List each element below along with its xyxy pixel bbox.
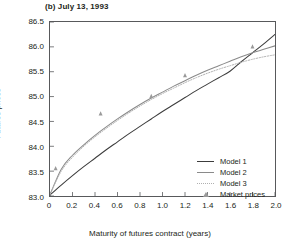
panel-title: (b) July 13, 1993 xyxy=(45,2,109,11)
legend-label: Model 3 xyxy=(220,180,247,188)
legend-line-icon xyxy=(197,157,214,167)
market-price-marker xyxy=(99,111,103,115)
legend-marker-icon xyxy=(197,190,214,200)
x-axis-title: Maturity of futures contract (years) xyxy=(0,229,300,238)
triangle-icon xyxy=(203,192,209,197)
legend-label: Model 1 xyxy=(220,158,247,166)
x-tick-label: 1.0 xyxy=(157,201,168,210)
market-price-marker xyxy=(54,166,58,170)
legend-label: Market prices xyxy=(220,191,265,199)
x-tick-label: 2.0 xyxy=(270,201,281,210)
legend-item: Model 1 xyxy=(197,156,265,167)
chart-legend: Model 1Model 2Model 3Market prices xyxy=(197,156,265,200)
x-tick-label: 1.2 xyxy=(180,201,191,210)
x-tick-label: 0.6 xyxy=(112,201,123,210)
y-tick-label: 83.0 xyxy=(0,193,44,202)
x-tick-label: 0.2 xyxy=(66,201,77,210)
market-price-marker xyxy=(149,94,153,98)
legend-line-icon xyxy=(197,179,214,189)
y-tick-label: 86.0 xyxy=(0,42,44,51)
x-tick-label: 1.6 xyxy=(225,201,236,210)
legend-label: Model 2 xyxy=(220,169,247,177)
x-tick-label: 0.4 xyxy=(89,201,100,210)
y-tick-label: 85.5 xyxy=(0,67,44,76)
x-tick-label: 1.4 xyxy=(202,201,213,210)
x-tick-label: 0 xyxy=(47,201,51,210)
y-tick-label: 84.0 xyxy=(0,142,44,151)
legend-item: Model 3 xyxy=(197,178,265,189)
legend-item: Market prices xyxy=(197,189,265,200)
legend-line-icon xyxy=(197,168,214,178)
y-tick-label: 85.0 xyxy=(0,92,44,101)
y-tick-label: 84.5 xyxy=(0,117,44,126)
y-axis-title: Futures prices xyxy=(0,88,2,139)
figure-panel: (b) July 13, 1993 Futures prices 83.083.… xyxy=(0,0,300,248)
x-tick-label: 1.8 xyxy=(248,201,259,210)
market-price-marker xyxy=(251,44,255,48)
x-tick-label: 0.8 xyxy=(134,201,145,210)
market-price-marker xyxy=(183,73,187,77)
y-tick-label: 83.5 xyxy=(0,167,44,176)
legend-item: Model 2 xyxy=(197,167,265,178)
y-tick-label: 86.5 xyxy=(0,17,44,26)
